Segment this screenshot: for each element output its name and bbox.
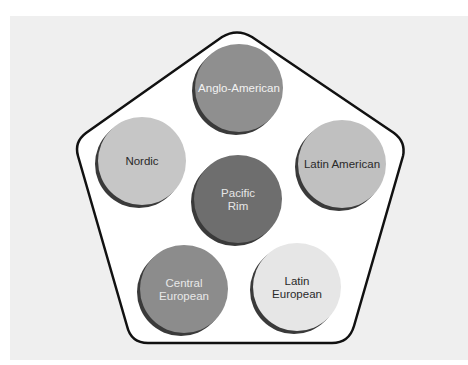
- cluster-label: Rim: [228, 200, 248, 212]
- cluster-label: Pacific: [221, 187, 255, 199]
- cluster-label: Latin American: [304, 158, 380, 170]
- cluster-label: Nordic: [125, 155, 158, 167]
- cluster-diagram: Anglo-AmericanNordicLatin AmericanPacifi…: [0, 0, 468, 365]
- cluster-label: Central: [165, 277, 202, 289]
- cluster-label: Anglo-American: [198, 82, 280, 94]
- cluster-label: Latin: [285, 275, 310, 287]
- cluster-label: European: [272, 288, 322, 300]
- cluster-label: European: [159, 290, 209, 302]
